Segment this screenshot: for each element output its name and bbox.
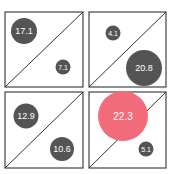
bubble-label: 17.1 [15,26,33,36]
bubble-label: 12.9 [17,111,35,121]
bubble-label: 7.1 [58,64,68,71]
bubble-label: 4.1 [108,30,118,37]
panel-bottom-right: 22.3 5.1 [89,91,166,168]
bubble-label: 5.1 [141,146,151,153]
bubble-label: 22.3 [113,111,133,122]
panel-bottom-left: 12.9 10.6 [5,92,83,168]
bubble-label: 10.6 [53,144,71,154]
panel-top-right: 4.1 20.8 [89,12,166,87]
bubble-grid-chart: 17.1 7.1 4.1 20.8 12.9 10.6 22.3 5.1 [0,0,169,174]
bubble-label: 20.8 [135,63,153,73]
panel-top-left: 17.1 7.1 [5,12,83,87]
